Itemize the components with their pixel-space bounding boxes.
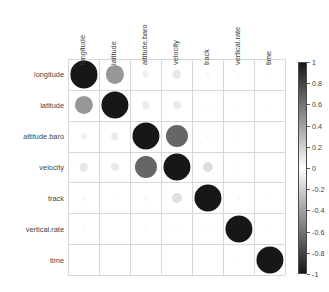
correlation-circle [82,227,86,231]
row-label-time: time [50,255,64,264]
correlation-circle [225,215,252,242]
correlation-circle [268,135,271,138]
column-label-velocity: velocity [171,40,180,65]
colorbar-tick-mark [307,232,310,233]
correlation-circle [268,73,271,76]
correlation-circle [144,258,147,261]
row-label-track: track [48,193,64,202]
correlation-circle [74,96,92,114]
colorbar-tick-label: -0.6 [312,227,324,236]
correlation-circle [202,162,212,172]
colorbar-tick-mark [307,104,310,105]
grid-line-vertical [99,59,100,275]
correlation-circle [172,70,181,79]
correlation-matrix-plot: longitudelatitudealtitude.barovelocitytr… [0,0,329,292]
correlation-circle [101,92,128,119]
correlation-circle [172,101,180,109]
correlation-circle [144,227,148,231]
colorbar-tick-mark [307,147,310,148]
column-label-longitude: longitude [78,35,87,65]
grid-line-horizontal [68,213,285,214]
correlation-circle [268,227,272,231]
correlation-circle [268,166,271,169]
correlation-circle [237,134,241,138]
correlation-circle [205,72,210,77]
colorbar-tick-label: -1 [312,270,318,279]
correlation-circle [113,196,117,200]
correlation-circle [142,71,149,78]
grid-line-horizontal [68,121,285,122]
correlation-circle [268,104,271,107]
row-label-velocity: velocity [39,163,64,172]
correlation-circle [163,153,190,180]
grid-line-vertical [254,59,255,275]
colorbar-tick-mark [307,274,310,275]
grid-line-vertical [285,59,286,275]
grid-line-horizontal [68,152,285,153]
correlation-circle [256,246,283,273]
colorbar-tick-label: -0.2 [312,185,324,194]
colorbar-tick-label: 0.8 [312,79,322,88]
column-label-track: track [202,49,211,65]
correlation-circle [237,73,241,77]
correlation-circle [194,184,221,211]
correlation-circle [143,195,148,200]
column-label-time: time [264,51,273,65]
colorbar-tick-label: 0.2 [312,142,322,151]
colorbar [298,62,307,274]
correlation-circle [113,227,116,230]
row-label-latitude: latitude [40,101,64,110]
colorbar-tick-label: 0 [312,164,316,173]
correlation-circle [206,227,210,231]
grid-line-vertical [192,59,193,275]
row-label-longitude: longitude [34,70,64,79]
colorbar-tick-label: -0.4 [312,206,324,215]
column-label-vertical-rate: vertical.rate [233,27,242,65]
row-label-altitude-baro: altitude.baro [23,132,64,141]
correlation-circle [237,165,241,169]
colorbar-tick-label: 0.4 [312,121,322,130]
correlation-circle [237,258,241,262]
correlation-circle [171,193,181,203]
correlation-circle [175,227,179,231]
colorbar-tick-mark [307,126,310,127]
correlation-circle [82,258,85,261]
correlation-circle [206,103,210,107]
correlation-circle [113,258,116,261]
column-label-altitude-baro: altitude.baro [140,24,149,65]
grid-line-horizontal [68,182,285,183]
correlation-circle [105,65,123,83]
correlation-circle [142,101,150,109]
correlation-circle [237,196,241,200]
colorbar-tick-label: 0.6 [312,100,322,109]
correlation-circle [205,134,210,139]
correlation-circle [79,163,88,172]
correlation-circle [175,258,178,261]
correlation-circle [206,258,209,261]
colorbar-tick-mark [307,83,310,84]
correlation-circle [268,196,271,199]
grid-line-vertical [68,59,69,275]
grid-line-vertical [223,59,224,275]
colorbar-tick-label: 1 [312,58,316,67]
grid-line-vertical [161,59,162,275]
correlation-circle [237,104,240,107]
colorbar-tick-label: -0.8 [312,248,324,257]
column-label-latitude: latitude [109,41,118,65]
colorbar-tick-mark [307,189,310,190]
correlation-circle [80,133,87,140]
colorbar-tick-mark [307,62,310,63]
correlation-circle [165,125,187,147]
grid-line-horizontal [68,275,285,276]
correlation-circle [81,195,86,200]
correlation-circle [111,132,119,140]
correlation-circle [132,123,159,150]
grid-line-horizontal [68,244,285,245]
colorbar-tick-mark [307,168,310,169]
correlation-circle [110,163,118,171]
grid-line-horizontal [68,90,285,91]
correlation-circle [134,156,156,178]
grid-line-vertical [130,59,131,275]
row-label-vertical-rate: vertical.rate [26,224,64,233]
colorbar-tick-mark [307,210,310,211]
